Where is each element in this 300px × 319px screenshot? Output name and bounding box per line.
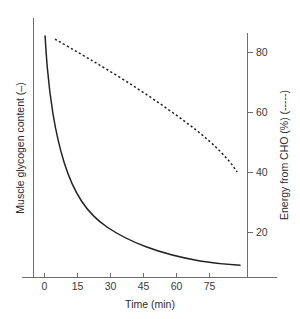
x-tick-label-75: 75 [204,280,216,292]
chart-figure: 0 15 30 45 60 75 20 40 60 80 Time (min) … [0,0,300,319]
series-muscle-glycogen-content [45,36,240,265]
series-energy-from-cho [55,39,237,172]
x-axis-title: Time (min) [125,298,175,310]
right-axis-title: Energy from CHO (%) (-----) [278,90,290,220]
x-tick-label-0: 0 [42,280,48,292]
right-tick-label-60: 60 [256,106,268,118]
right-tick-label-80: 80 [256,46,268,58]
right-tick-group: 20 40 60 80 [248,46,268,238]
x-tick-label-30: 30 [105,280,117,292]
left-axis-title: Muscle glycogen content (–) [14,82,26,213]
x-tick-label-15: 15 [72,280,84,292]
x-tick-group: 0 15 30 45 60 75 [42,273,216,293]
chart-canvas: 0 15 30 45 60 75 20 40 60 80 Time (min) … [0,0,300,319]
right-tick-label-20: 20 [256,226,268,238]
x-tick-label-45: 45 [138,280,150,292]
right-tick-label-40: 40 [256,166,268,178]
series-group [45,36,240,265]
x-tick-label-60: 60 [171,280,183,292]
